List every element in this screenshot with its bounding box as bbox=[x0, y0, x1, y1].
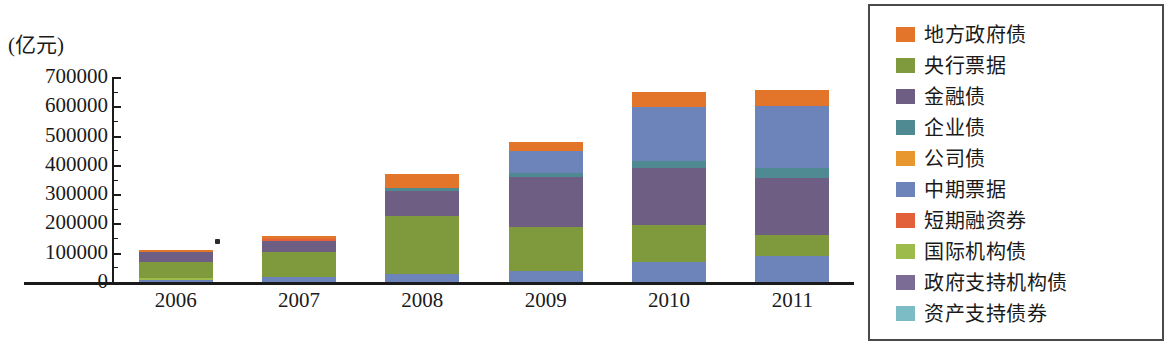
bar-stack bbox=[755, 90, 829, 282]
bar-segment bbox=[262, 277, 336, 282]
y-axis-unit-label: (亿元) bbox=[8, 28, 64, 58]
legend-item[interactable]: 政府支持机构债 bbox=[896, 267, 1156, 298]
y-axis-tick-label: 100000 bbox=[45, 242, 108, 263]
legend-item[interactable]: 中期票据 bbox=[896, 174, 1156, 205]
y-axis-tick-label: 600000 bbox=[45, 95, 108, 116]
bar-segment bbox=[632, 92, 706, 108]
bar-segment bbox=[385, 216, 459, 274]
bar-segment bbox=[385, 191, 459, 216]
bar-segment bbox=[632, 161, 706, 168]
bar-segment bbox=[755, 178, 829, 235]
bar-segment bbox=[632, 262, 706, 282]
legend-item[interactable]: 资产支持债券 bbox=[896, 298, 1156, 329]
legend-swatch-icon bbox=[896, 213, 915, 228]
bar-stack bbox=[385, 174, 459, 282]
bar-segment bbox=[139, 252, 213, 262]
bar-segment bbox=[262, 241, 336, 252]
legend-swatch-icon bbox=[896, 89, 915, 104]
x-axis-tick-label: 2008 bbox=[361, 288, 484, 312]
y-axis-tick-label: 700000 bbox=[45, 66, 108, 87]
bar-stack bbox=[509, 142, 583, 283]
bar-segment bbox=[509, 151, 583, 173]
bar-segment bbox=[632, 225, 706, 262]
bar-segment bbox=[632, 107, 706, 160]
x-axis-line bbox=[24, 282, 854, 285]
x-axis-tick-label: 2006 bbox=[114, 288, 237, 312]
legend-label: 中期票据 bbox=[924, 179, 1006, 201]
legend-swatch-icon bbox=[896, 244, 915, 259]
x-axis-tick-label: 2009 bbox=[484, 288, 607, 312]
legend-box: 地方政府债央行票据金融债企业债公司债中期票据短期融资券国际机构债政府支持机构债资… bbox=[868, 4, 1164, 341]
bar-segment bbox=[755, 168, 829, 178]
legend-item[interactable]: 企业债 bbox=[896, 112, 1156, 143]
bar-segment bbox=[509, 177, 583, 227]
legend-label: 金融债 bbox=[924, 86, 986, 108]
legend-swatch-icon bbox=[896, 58, 915, 73]
bar-segment bbox=[509, 142, 583, 151]
plot-area: 7000006000005000004000003000002000001000… bbox=[0, 70, 860, 320]
bars-layer bbox=[114, 70, 854, 282]
bar-segment bbox=[139, 280, 213, 282]
bar-segment bbox=[385, 274, 459, 282]
legend-swatch-icon bbox=[896, 275, 915, 290]
legend-item[interactable]: 短期融资券 bbox=[896, 205, 1156, 236]
bar-segment bbox=[755, 90, 829, 106]
legend-item[interactable]: 公司债 bbox=[896, 143, 1156, 174]
y-axis-tick-labels: 7000006000005000004000003000002000001000… bbox=[0, 70, 108, 285]
legend-swatch-icon bbox=[896, 182, 915, 197]
legend-label: 公司债 bbox=[924, 148, 986, 170]
bar-segment bbox=[509, 227, 583, 272]
bar-segment bbox=[509, 271, 583, 282]
bar-stack bbox=[262, 236, 336, 282]
legend-label: 企业债 bbox=[924, 117, 986, 139]
legend-item[interactable]: 国际机构债 bbox=[896, 236, 1156, 267]
legend-item[interactable]: 金融债 bbox=[896, 81, 1156, 112]
bar-segment bbox=[755, 106, 829, 168]
legend-swatch-icon bbox=[896, 151, 915, 166]
scan-artifact-speck bbox=[215, 239, 220, 244]
bar-segment bbox=[139, 262, 213, 278]
legend-label: 央行票据 bbox=[924, 55, 1006, 77]
bar-stack bbox=[632, 92, 706, 282]
x-axis-tick-label: 2010 bbox=[607, 288, 730, 312]
legend-swatch-icon bbox=[896, 120, 915, 135]
legend-swatch-icon bbox=[896, 306, 915, 321]
bar-segment bbox=[262, 252, 336, 278]
y-axis-tick-label: 300000 bbox=[45, 183, 108, 204]
y-axis-tick-label: 200000 bbox=[45, 212, 108, 233]
y-axis-tick-label: 500000 bbox=[45, 125, 108, 146]
stacked-bar-chart-figure: (亿元) 70000060000050000040000030000020000… bbox=[0, 0, 1171, 345]
legend-label: 短期融资券 bbox=[924, 210, 1027, 232]
x-axis-tick-labels: 200620072008200920102011 bbox=[114, 288, 854, 318]
legend-list: 地方政府债央行票据金融债企业债公司债中期票据短期融资券国际机构债政府支持机构债资… bbox=[896, 19, 1156, 329]
x-axis-tick-label: 2011 bbox=[731, 288, 854, 312]
legend-label: 国际机构债 bbox=[924, 241, 1027, 263]
legend-item[interactable]: 地方政府债 bbox=[896, 19, 1156, 50]
bar-segment bbox=[755, 256, 829, 282]
x-axis-tick-label: 2007 bbox=[237, 288, 360, 312]
bar-stack bbox=[139, 250, 213, 282]
legend-item[interactable]: 央行票据 bbox=[896, 50, 1156, 81]
legend-label: 地方政府债 bbox=[924, 24, 1027, 46]
bar-segment bbox=[385, 174, 459, 188]
legend-label: 政府支持机构债 bbox=[924, 272, 1068, 294]
legend-swatch-icon bbox=[896, 27, 915, 42]
legend-label: 资产支持债券 bbox=[924, 303, 1047, 325]
y-axis-tick-label: 400000 bbox=[45, 154, 108, 175]
bar-segment bbox=[632, 168, 706, 225]
bar-segment bbox=[755, 235, 829, 257]
